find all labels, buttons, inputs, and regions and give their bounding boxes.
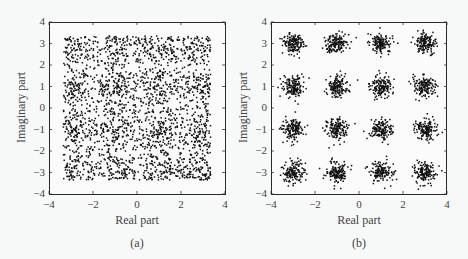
y-tick-label: 0 xyxy=(247,102,267,113)
y-tick-label: 0 xyxy=(25,102,45,113)
caption-a: (a) xyxy=(117,236,157,251)
y-tick-label: 4 xyxy=(247,16,267,27)
y-tick-label: 4 xyxy=(25,16,45,27)
y-tick-label: −1 xyxy=(247,124,267,135)
y-tick-label: 3 xyxy=(25,38,45,49)
y-tick-label: −4 xyxy=(25,188,45,199)
y-tick-label: −3 xyxy=(247,167,267,178)
x-tick-label: 0 xyxy=(127,199,147,210)
x-tick-label: −4 xyxy=(39,199,59,210)
y-tick-label: 2 xyxy=(247,59,267,70)
x-tick-label: −2 xyxy=(305,199,325,210)
y-tick-label: −4 xyxy=(247,188,267,199)
x-axis-label-a: Real part xyxy=(107,213,167,228)
x-tick-label: 0 xyxy=(349,199,369,210)
x-tick-label: 4 xyxy=(437,199,457,210)
y-tick-label: 3 xyxy=(247,38,267,49)
x-tick-label: −4 xyxy=(261,199,281,210)
y-tick-label: −2 xyxy=(25,145,45,156)
y-tick-label: 1 xyxy=(247,81,267,92)
x-tick-label: 2 xyxy=(171,199,191,210)
y-tick-label: −3 xyxy=(25,167,45,178)
y-tick-label: −1 xyxy=(25,124,45,135)
x-tick-label: 2 xyxy=(393,199,413,210)
y-tick-label: −2 xyxy=(247,145,267,156)
x-tick-label: −2 xyxy=(83,199,103,210)
y-tick-label: 1 xyxy=(25,81,45,92)
panel-b: Imaginary part Real part (b) −4−3−2−1012… xyxy=(222,0,456,259)
caption-b: (b) xyxy=(339,236,379,251)
x-axis-label-b: Real part xyxy=(329,213,389,228)
y-tick-label: 2 xyxy=(25,59,45,70)
panel-a: Imaginary part Real part (a) −4−3−2−1012… xyxy=(0,0,234,259)
